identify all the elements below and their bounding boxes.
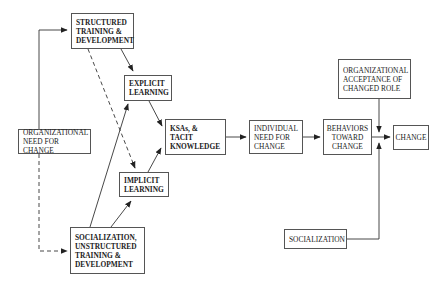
edge-explicit-to-ksas (149, 101, 162, 126)
diagram-canvas: STRUCTURED TRAINING & DEVELOPMENT EXPLIC… (0, 0, 447, 288)
node-change: CHANGE (393, 125, 429, 150)
node-org-acceptance: ORGANIZATIONAL ACCEPTANCE OF CHANGED ROL… (338, 59, 411, 99)
edge-socialization-to-explicit (90, 104, 128, 227)
edge-implicit-to-ksas (148, 148, 161, 172)
edge-structured-to-implicit (88, 49, 135, 168)
edge-structured-to-explicit (121, 49, 133, 71)
edge-socialization-to-change (347, 143, 379, 239)
node-implicit-learning: IMPLICIT LEARNING (119, 172, 169, 197)
node-explicit-learning: EXPLICIT LEARNING (124, 75, 172, 101)
node-ksas-tacit-knowledge: KSAs, & TACIT KNOWLEDGE (165, 119, 226, 155)
edge-org-need-to-socialization-unstructured (39, 154, 67, 251)
node-individual-need: INDIVIDUAL NEED FOR CHANGE (249, 120, 303, 154)
node-behaviors-toward-change: BEHAVIORS TOWARD CHANGE (323, 119, 372, 155)
node-socialization: SOCIALIZATION (284, 229, 347, 249)
node-socialization-unstructured: SOCIALIZATION, UNSTRUCTURED TRAINING & D… (70, 227, 145, 274)
node-structured-training: STRUCTURED TRAINING & DEVELOPMENT (71, 13, 134, 49)
edge-org-need-to-structured (39, 30, 67, 129)
edge-socialization-to-implicit (111, 201, 131, 227)
node-org-need-for-change: ORGANIZATIONAL NEED FOR CHANGE (18, 129, 91, 154)
